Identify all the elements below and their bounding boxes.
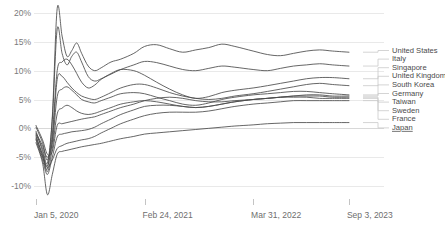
x-axis-tick-label: Sep 3, 2023 (347, 210, 393, 220)
y-axis-tick-label: -10% (11, 181, 31, 191)
y-axis-tick-label: 10% (14, 66, 31, 76)
x-axis-tick-label: Mar 31, 2022 (251, 210, 301, 220)
y-axis-tick-label: -5% (16, 152, 32, 162)
x-axis-tick-label: Feb 24, 2021 (143, 210, 193, 220)
y-axis-tick-label: 20% (14, 8, 31, 18)
y-axis-tick-label: 0% (19, 123, 32, 133)
legend-item-japan[interactable]: Japan (392, 123, 413, 132)
chart-container: 20%15%10%5%0%-5%-10% Jan 5, 2020Feb 24, … (0, 0, 445, 228)
y-axis-tick-label: 15% (14, 37, 31, 47)
x-axis-tick-label: Jan 5, 2020 (34, 210, 79, 220)
y-axis-tick-label: 5% (19, 95, 32, 105)
line-chart: 20%15%10%5%0%-5%-10% Jan 5, 2020Feb 24, … (0, 0, 445, 228)
